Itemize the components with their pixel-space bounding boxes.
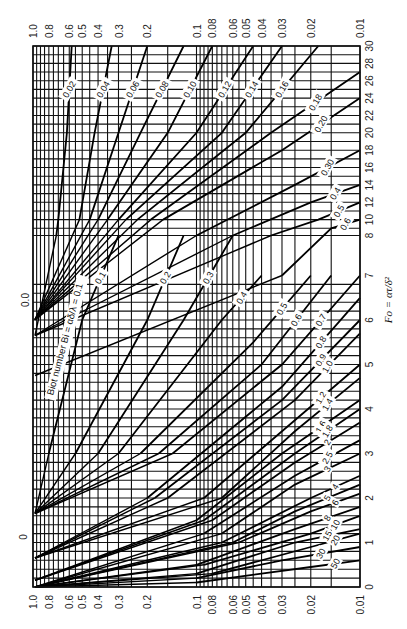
top-tick-label: 0.03 — [277, 18, 288, 38]
zero-top-label: 0.0 — [20, 293, 31, 307]
top-tick-label: 0.2 — [142, 24, 153, 38]
right-tick-label: 7 — [364, 272, 375, 278]
right-tick-label: 1 — [364, 539, 375, 545]
right-tick-label: 4 — [364, 406, 375, 412]
right-tick-label: 8 — [364, 232, 375, 238]
curve-label: 4 — [328, 481, 341, 493]
bottom-tick-label: 0.01 — [355, 595, 366, 615]
bottom-tick-label: 0.2 — [142, 595, 153, 609]
top-tick-label: 0.3 — [114, 24, 125, 38]
bottom-tick-label: 0.6 — [64, 595, 75, 609]
top-tick-label: 0.05 — [241, 18, 252, 38]
top-tick-label: 0.06 — [228, 18, 239, 38]
top-tick-label: 0.8 — [44, 24, 55, 38]
right-tick-label: 18 — [364, 144, 375, 156]
top-tick-label: 0.08 — [207, 18, 218, 38]
bottom-tick-label: 0.03 — [277, 595, 288, 615]
right-tick-label: 20 — [364, 127, 375, 139]
right-tick-label: 3 — [364, 450, 375, 456]
bottom-tick-label: 0.06 — [228, 595, 239, 615]
right-tick-label: 2 — [364, 495, 375, 501]
bottom-tick-label: 0.1 — [192, 595, 203, 609]
top-tick-label: 0.6 — [64, 24, 75, 38]
right-tick-label: 24 — [364, 92, 375, 104]
bottom-tick-label: 0.05 — [241, 595, 252, 615]
series-curve — [239, 494, 360, 543]
top-tick-label: 0.02 — [306, 18, 317, 38]
bottom-tick-label: 1.0 — [28, 595, 39, 609]
right-tick-label: 28 — [364, 57, 375, 69]
top-tick-label: 0.1 — [192, 24, 203, 38]
right-tick-label: 12 — [364, 196, 375, 208]
bottom-tick-label: 0.5 — [77, 595, 88, 609]
right-tick-label: 10 — [364, 214, 375, 226]
curve-label: 0.18 — [304, 89, 325, 115]
fo-axis-title: Fo = ατ/δ² — [382, 276, 394, 324]
top-axis-tick-labels: 1.00.80.60.50.40.30.20.10.080.060.050.04… — [28, 18, 366, 38]
bottom-tick-label: 0.8 — [44, 595, 55, 609]
right-tick-label: 5 — [364, 361, 375, 367]
curve-label: 0.3 — [198, 267, 217, 288]
series-curve-extension — [35, 220, 137, 320]
zero-bottom-label: 0 — [18, 534, 29, 540]
right-tick-label: 16 — [364, 162, 375, 174]
right-tick-label: 30 — [364, 40, 375, 52]
bottom-tick-label: 0.02 — [306, 595, 317, 615]
curve-label-text: 30 — [314, 547, 328, 561]
bottom-tick-label: 0.3 — [114, 595, 125, 609]
bottom-tick-label: 0.4 — [93, 595, 104, 609]
bottom-tick-label: 0.04 — [257, 595, 268, 615]
top-tick-label: 0.01 — [355, 18, 366, 38]
right-tick-label: 14 — [364, 179, 375, 191]
right-tick-label: 22 — [364, 110, 375, 122]
bottom-tick-label: 0.08 — [207, 595, 218, 615]
right-tick-label: 0 — [364, 584, 375, 590]
top-tick-label: 0.5 — [77, 24, 88, 38]
curve-label: 30 — [313, 545, 329, 562]
top-tick-label: 0.4 — [93, 24, 104, 38]
right-tick-label: 26 — [364, 75, 375, 87]
series-curve-extension — [35, 220, 151, 320]
heisler-chart: 0.020.040.060.080.100.120.140.160.180.20… — [0, 0, 407, 629]
curve-label-text: 50 — [329, 557, 343, 571]
top-tick-label: 1.0 — [28, 24, 39, 38]
bottom-axis-tick-labels: 1.00.80.60.50.40.30.20.10.080.060.050.04… — [28, 595, 366, 615]
right-axis-tick-labels: 0123456781012141618202224262830 — [364, 40, 375, 590]
right-tick-label: 6 — [364, 317, 375, 323]
top-tick-label: 0.04 — [257, 18, 268, 38]
